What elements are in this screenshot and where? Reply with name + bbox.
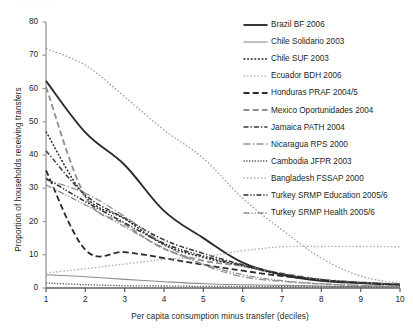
legend-item[interactable]: Chile Solidario 2003: [243, 33, 413, 50]
legend-item[interactable]: Ecuador BDH 2006: [243, 67, 413, 84]
legend-item-label: Brazil BF 2006: [271, 20, 325, 29]
legend-item[interactable]: Bangladesh FSSAP 2000: [243, 170, 413, 187]
legend-line-swatch: [243, 122, 268, 132]
chart-figure: ꞏ ꞏ ꞏ ꞏ ꞏ Proportion of households recei…: [0, 0, 413, 328]
legend-item-label: Bangladesh FSSAP 2000: [271, 174, 364, 183]
legend-line-swatch: [243, 190, 268, 200]
legend-item-label: Chile Solidario 2003: [271, 37, 344, 46]
legend-line-swatch: [243, 54, 268, 64]
legend-line-swatch: [243, 71, 268, 81]
legend-item-label: Cambodia JFPR 2003: [271, 157, 352, 166]
legend-line-swatch: [243, 20, 268, 30]
legend-item[interactable]: Nicaragua RPS 2000: [243, 136, 413, 153]
legend-item-label: Ecuador BDH 2006: [271, 71, 342, 80]
legend-line-swatch: [243, 173, 268, 183]
legend-item-label: Nicaragua RPS 2000: [271, 140, 348, 149]
legend-line-swatch: [243, 37, 268, 47]
legend-item[interactable]: Cambodia JFPR 2003: [243, 153, 413, 170]
legend-item-label: Jamaica PATH 2004: [271, 123, 345, 132]
chart-legend: Brazil BF 2006Chile Solidario 2003Chile …: [243, 16, 413, 221]
legend-item[interactable]: Jamaica PATH 2004: [243, 119, 413, 136]
legend-item[interactable]: Mexico Oportunidades 2004: [243, 101, 413, 118]
legend-line-swatch: [243, 208, 268, 218]
legend-item-label: Turkey SRMP Education 2005/6: [271, 191, 388, 200]
legend-item-label: Chile SUF 2003: [271, 54, 329, 63]
legend-item-label: Mexico Oportunidades 2004: [271, 106, 373, 115]
legend-item[interactable]: Turkey SRMP Education 2005/6: [243, 187, 413, 204]
legend-item[interactable]: Turkey SRMP Health 2005/6: [243, 204, 413, 221]
legend-item[interactable]: Honduras PRAF 2004/5: [243, 84, 413, 101]
legend-item-label: Turkey SRMP Health 2005/6: [271, 208, 375, 217]
legend-item[interactable]: Chile SUF 2003: [243, 50, 413, 67]
legend-line-swatch: [243, 105, 268, 115]
legend-item[interactable]: Brazil BF 2006: [243, 16, 413, 33]
legend-line-swatch: [243, 88, 268, 98]
legend-item-label: Honduras PRAF 2004/5: [271, 88, 358, 97]
legend-line-swatch: [243, 156, 268, 166]
legend-line-swatch: [243, 139, 268, 149]
